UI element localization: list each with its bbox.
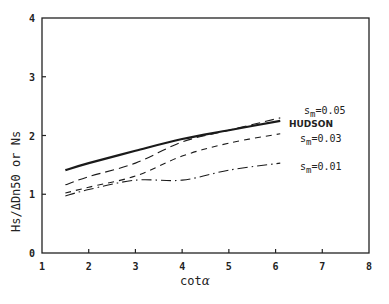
series-line-s-m-0-01 xyxy=(65,163,280,196)
y-axis-title: Hs/ΔDn50 or Ns xyxy=(9,131,23,232)
chart: 12345678 01234 sm=0.05 HUDSON sm=0.03 sm… xyxy=(0,0,389,304)
x-tick-label: 2 xyxy=(86,261,92,272)
x-tick-label: 3 xyxy=(132,261,138,272)
series-line-s-m-0-03 xyxy=(65,134,280,193)
label-sm001: sm=0.01 xyxy=(300,161,342,175)
y-tick-label: 3 xyxy=(29,72,35,83)
label-hudson: HUDSON xyxy=(289,119,333,129)
x-tick-label: 8 xyxy=(366,261,372,272)
x-tick-label: 5 xyxy=(226,261,232,272)
x-tick-label: 4 xyxy=(179,261,185,272)
y-tick-label: 0 xyxy=(29,248,35,259)
y-tick-label: 4 xyxy=(29,13,35,24)
x-tick-label: 1 xyxy=(39,261,45,272)
series-group xyxy=(65,118,280,196)
y-tick-label: 1 xyxy=(29,189,35,200)
x-axis-title: cotα xyxy=(180,274,210,288)
series-line-s-m-0-05 xyxy=(65,118,280,185)
label-sm003: sm=0.03 xyxy=(300,133,342,147)
x-tick-label: 6 xyxy=(273,261,279,272)
y-tick-label: 2 xyxy=(29,131,35,142)
y-axis: 01234 xyxy=(29,13,46,259)
label-sm005: sm=0.05 xyxy=(304,105,346,119)
x-tick-label: 7 xyxy=(319,261,325,272)
